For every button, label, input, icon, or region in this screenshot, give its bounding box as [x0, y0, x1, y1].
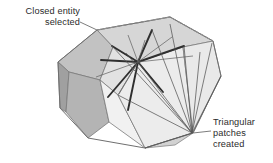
annotation-closed-entity-selected: Closed entity selected — [6, 6, 80, 28]
annotation-line: created — [213, 139, 273, 150]
polyhedron-faces — [58, 17, 221, 148]
annotation-line: selected — [6, 17, 80, 28]
annotation-line: Closed entity — [6, 6, 80, 17]
annotation-triangular-patches-created: Triangular patches created — [213, 117, 273, 151]
figure-container: Closed entity selected Triangular patche… — [0, 0, 273, 163]
leader-line-closed-entity — [80, 22, 97, 30]
leader-line-triangular-patches — [193, 131, 211, 133]
annotation-line: Triangular — [213, 117, 273, 128]
annotation-line: patches — [213, 128, 273, 139]
